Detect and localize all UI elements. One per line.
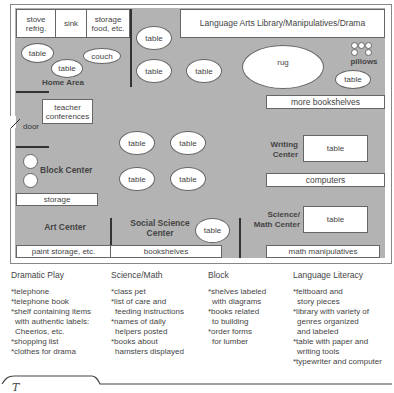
list-item: *feltboard and story pieces [293,287,393,307]
door-icon [10,117,22,129]
storage: storage [16,193,98,206]
home-table-2: table [51,59,83,78]
block-circle [23,154,38,169]
wall-home-area [16,91,49,93]
writing-center-table: table [303,135,368,162]
pillow-icon [351,42,358,49]
list-title: Language Literacy [293,270,393,280]
pillow-icon [365,42,372,49]
bookshelves: bookshelves [110,245,222,258]
list-block: Block *shelves labeled with diagrams *bo… [208,270,288,347]
pillow-icon [365,49,372,56]
math-manipulatives: math manipulatives [266,245,380,258]
list-item: *typewriter and computer [293,357,393,367]
teacher-conferences: teacher conferences [42,99,93,124]
list-title: Dramatic Play [11,270,111,280]
table-center-4: table [170,167,206,191]
more-bookshelves: more bookshelves [266,95,385,109]
list-title: Block [208,270,288,280]
list-item: *library with variety of genres organize… [293,307,393,337]
block-circle [23,173,38,188]
table-mid-3: table [186,59,222,83]
list-item: *names of daily helpers posted [111,317,201,337]
table-center-1: table [119,131,155,155]
rug: rug [242,45,324,89]
pillow-icon [358,42,365,49]
door-label: door [23,122,39,132]
footer-tab-glyph: T [12,381,19,393]
wall-divider [130,9,132,87]
home-area-label: Home Area [38,78,88,88]
list-item: *telephone book [11,297,111,307]
writing-center-label: Writing Center [262,140,298,160]
couch: couch [83,48,121,64]
list-item: *list of care and feeding instructions [111,297,201,317]
list-item: *class pet [111,287,201,297]
footer-tab-rule [0,372,394,393]
computers: computers [266,173,385,187]
paint-storage: paint storage, etc. [16,245,111,258]
list-title: Science/Math [111,270,201,280]
home-table-1: table [21,43,54,63]
list-item: *shopping list [11,337,111,347]
science-math-table: table [303,206,368,233]
table-mid-1: table [136,26,172,50]
list-item: *shelves labeled with diagrams [208,287,288,307]
list-item: *clothes for drama [11,347,111,357]
wall-block-area [16,146,49,148]
list-item: *telephone [11,287,111,297]
list-item: *table with paper and writing tools [293,337,393,357]
pillows-label: pillows [344,57,384,67]
list-item: *books related to building [208,307,288,327]
list-dramatic-play: Dramatic Play *telephone *telephone book… [11,270,111,357]
sink: sink [55,9,87,38]
table-mid-2: table [136,59,172,83]
table-center-2: table [170,131,206,155]
social-science-center-label: Social Science Center [125,218,195,238]
wall-divider [239,218,241,258]
art-center-label: Art Center [30,222,100,232]
table-center-3: table [119,167,155,191]
pillow-icon [351,49,358,56]
language-arts-library: Language Arts Library/Manipulatives/Dram… [180,9,385,38]
list-item: *shelf containing items with authentic l… [11,307,111,337]
stove-refrigerator: stove refrig. [16,9,56,38]
list-item: *order forms for lumber [208,327,288,347]
pillow-area-table: table [335,70,371,89]
list-science-math: Science/Math *class pet *list of care an… [111,270,201,357]
science-math-center-label: Science/ Math Center [252,210,300,230]
storage-food: storage food, etc. [86,9,130,38]
list-item: *books about hamsters displayed [111,337,201,357]
list-language-literacy: Language Literacy *feltboard and story p… [293,270,393,367]
block-center-label: Block Center [40,165,100,175]
social-science-table: table [195,218,230,243]
